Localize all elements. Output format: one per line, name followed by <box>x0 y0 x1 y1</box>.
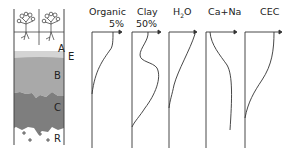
horizon-e-label: E <box>68 52 74 62</box>
bedrock-marks <box>22 131 50 142</box>
ca-na-header: Ca+Na <box>208 7 241 17</box>
horizon-r-label: R <box>54 134 61 144</box>
clay-curve <box>132 32 159 127</box>
organic-scale: 5% <box>109 19 124 29</box>
organic-curve <box>92 32 113 94</box>
h2o-header: H2O <box>173 7 191 21</box>
clay-header: Clay <box>137 7 158 17</box>
horizon-a-label: A <box>58 44 65 54</box>
horizon-b-label: B <box>54 71 61 81</box>
ca-na-curve <box>210 32 232 130</box>
horizon-c-label: C <box>54 103 61 113</box>
cec-header: CEC <box>260 7 279 17</box>
profile-graphs <box>92 30 282 148</box>
h2o-curve <box>169 34 195 108</box>
clay-scale: 50% <box>136 19 157 29</box>
organic-header: Organic <box>89 7 126 17</box>
horizon-c-layer <box>14 92 64 134</box>
cec-curve <box>245 32 274 118</box>
